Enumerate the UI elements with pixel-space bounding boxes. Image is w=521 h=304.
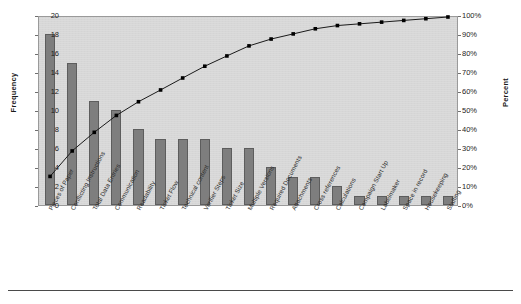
y-tickmark-left-18 bbox=[35, 35, 38, 36]
cumulative-marker-8 bbox=[225, 54, 229, 58]
y-tickmark-left-14 bbox=[35, 73, 38, 74]
y-tickmark-left-8 bbox=[35, 130, 38, 131]
y-tick-right-100: 100% bbox=[462, 12, 496, 20]
cumulative-marker-5 bbox=[159, 88, 163, 92]
y-tickmark-left-10 bbox=[35, 111, 38, 112]
cumulative-marker-14 bbox=[358, 22, 362, 26]
footer-rule bbox=[8, 290, 513, 291]
y-tickmark-left-4 bbox=[35, 168, 38, 169]
y-tick-right-40: 40% bbox=[462, 126, 496, 134]
cumulative-marker-13 bbox=[336, 24, 340, 28]
y-tickmark-left-20 bbox=[35, 16, 38, 17]
cumulative-marker-18 bbox=[446, 15, 450, 19]
y-axis-title-percent: Percent bbox=[501, 58, 510, 128]
cumulative-marker-15 bbox=[380, 20, 384, 24]
y-tickmark-right-10 bbox=[458, 187, 461, 188]
cumulative-marker-4 bbox=[137, 100, 141, 104]
y-tickmark-right-80 bbox=[458, 54, 461, 55]
y-tick-right-50: 50% bbox=[462, 107, 496, 115]
y-tickmark-left-12 bbox=[35, 92, 38, 93]
cumulative-polyline bbox=[50, 17, 448, 176]
cumulative-marker-3 bbox=[115, 114, 119, 118]
pareto-chart: Frequency Percent 02468101214161820 0%10… bbox=[0, 0, 521, 304]
y-tick-right-60: 60% bbox=[462, 88, 496, 96]
y-tick-right-10: 10% bbox=[462, 183, 496, 191]
y-tickmark-right-90 bbox=[458, 35, 461, 36]
cumulative-marker-0 bbox=[48, 175, 52, 179]
y-tick-right-30: 30% bbox=[462, 145, 496, 153]
cumulative-marker-11 bbox=[291, 32, 295, 36]
cumulative-marker-17 bbox=[424, 17, 428, 21]
y-tick-right-20: 20% bbox=[462, 164, 496, 172]
cumulative-marker-12 bbox=[314, 27, 318, 31]
y-tickmark-right-60 bbox=[458, 92, 461, 93]
y-tickmark-right-30 bbox=[458, 149, 461, 150]
y-tickmark-right-50 bbox=[458, 111, 461, 112]
y-tickmark-right-70 bbox=[458, 73, 461, 74]
y-tickmark-right-40 bbox=[458, 130, 461, 131]
y-tickmark-left-2 bbox=[35, 187, 38, 188]
x-axis-category-labels: Pieces of PaperConflicting InstructionsT… bbox=[38, 208, 458, 290]
cumulative-marker-9 bbox=[247, 44, 251, 48]
y-axis-title-frequency: Frequency bbox=[9, 58, 18, 128]
y-tick-right-90: 90% bbox=[462, 31, 496, 39]
y-tickmark-left-16 bbox=[35, 54, 38, 55]
cumulative-marker-1 bbox=[70, 149, 74, 153]
y-tickmark-left-0 bbox=[35, 206, 38, 207]
y-tick-right-70: 70% bbox=[462, 69, 496, 77]
y-tick-right-80: 80% bbox=[462, 50, 496, 58]
cumulative-marker-7 bbox=[203, 64, 207, 68]
cumulative-marker-2 bbox=[92, 131, 96, 135]
y-tickmark-right-20 bbox=[458, 168, 461, 169]
cumulative-marker-16 bbox=[402, 19, 406, 23]
y-tick-right-0: 0% bbox=[462, 202, 496, 210]
cumulative-markers bbox=[48, 15, 450, 178]
y-tickmark-left-6 bbox=[35, 149, 38, 150]
cumulative-marker-6 bbox=[181, 76, 185, 80]
cumulative-marker-10 bbox=[269, 37, 273, 41]
y-tickmark-right-100 bbox=[458, 16, 461, 17]
y-tickmark-right-0 bbox=[458, 206, 461, 207]
